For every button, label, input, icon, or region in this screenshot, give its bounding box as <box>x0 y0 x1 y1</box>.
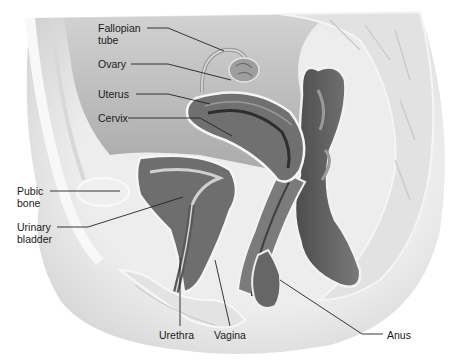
pelvis-illustration <box>0 0 457 362</box>
label-urinary-bladder: Urinary bladder <box>17 221 52 245</box>
label-ovary: Ovary <box>98 58 126 70</box>
label-uterus: Uterus <box>98 88 129 100</box>
label-fallopian-tube: Fallopian tube <box>98 22 141 46</box>
label-anus: Anus <box>387 329 411 341</box>
label-vagina: Vagina <box>214 329 246 341</box>
pubic-bone <box>77 178 129 206</box>
label-urethra: Urethra <box>159 329 194 341</box>
label-pubic-bone: Pubic bone <box>17 185 43 209</box>
label-cervix: Cervix <box>98 112 128 124</box>
